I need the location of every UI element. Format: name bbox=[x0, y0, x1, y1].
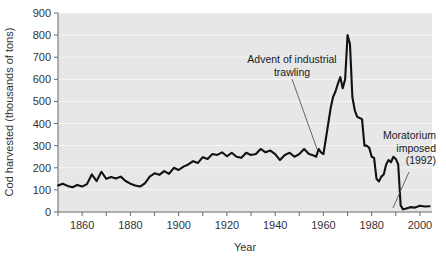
annotation-text-moratorium: imposed bbox=[396, 142, 436, 154]
y-tick-label: 100 bbox=[33, 184, 51, 196]
annotation-text-moratorium: Moratorium bbox=[383, 129, 436, 141]
x-tick-label: 1880 bbox=[118, 219, 142, 231]
x-tick-label: 1980 bbox=[359, 219, 383, 231]
y-tick-label: 300 bbox=[33, 140, 51, 152]
x-tick-label: 1860 bbox=[70, 219, 94, 231]
y-tick-label: 200 bbox=[33, 162, 51, 174]
x-tick-label: 1900 bbox=[166, 219, 190, 231]
plot-area-background bbox=[58, 13, 432, 212]
annotation-text-trawling: trawling bbox=[274, 66, 310, 78]
y-tick-label: 0 bbox=[45, 206, 51, 218]
x-axis-title: Year bbox=[234, 241, 257, 253]
annotation-text-trawling: Advent of industrial bbox=[247, 53, 336, 65]
y-tick-label: 500 bbox=[33, 95, 51, 107]
chart-canvas: 0100200300400500600700800900 18601880190… bbox=[0, 0, 446, 257]
y-tick-label: 900 bbox=[33, 7, 51, 19]
annotation-text-moratorium: (1992) bbox=[406, 154, 436, 166]
x-tick-label: 2000 bbox=[408, 219, 432, 231]
y-tick-label: 700 bbox=[33, 51, 51, 63]
y-tick-label: 800 bbox=[33, 29, 51, 41]
y-axis-title: Cod harvested (thousands of tons) bbox=[3, 28, 15, 197]
x-tick-label: 1960 bbox=[311, 219, 335, 231]
y-tick-label: 400 bbox=[33, 118, 51, 130]
x-tick-label: 1940 bbox=[263, 219, 287, 231]
cod-harvest-chart: 0100200300400500600700800900 18601880190… bbox=[0, 0, 446, 257]
x-tick-label: 1920 bbox=[215, 219, 239, 231]
y-tick-label: 600 bbox=[33, 73, 51, 85]
